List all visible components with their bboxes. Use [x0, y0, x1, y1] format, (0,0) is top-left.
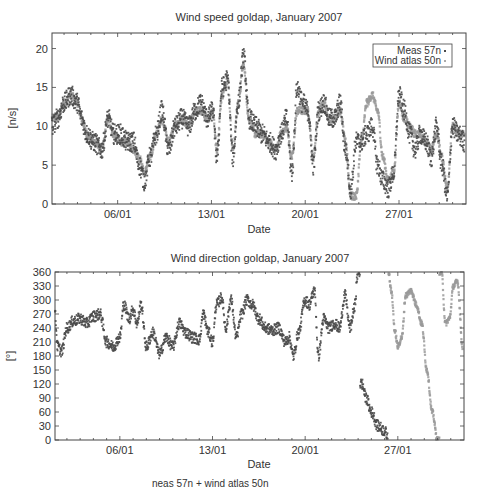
y-tick-label: 0: [42, 198, 48, 210]
y-tick-label: 330: [33, 280, 51, 292]
x-tick-label: 13/01: [198, 208, 226, 220]
legend-atlas-label: Wind atlas 50n: [375, 55, 441, 66]
wind-speed-y-label: [n/s]: [6, 108, 18, 129]
wind-direction-x-label: Date: [247, 458, 270, 470]
x-tick-label: 20/01: [291, 208, 319, 220]
y-tick-label: 20: [36, 43, 48, 55]
wind-direction-plot-frame: [55, 272, 464, 440]
wind-speed-chart: Wind speed goldap, January 2007 05101520…: [6, 11, 466, 235]
chart-canvas: Wind speed goldap, January 2007 05101520…: [0, 0, 482, 498]
y-tick-label: 90: [39, 392, 51, 404]
wind-direction-y-axis: 0306090120150180210240270300330360: [33, 266, 464, 446]
wind-speed-x-label: Date: [247, 223, 270, 235]
wind-direction-points: [54, 271, 464, 441]
x-tick-label: 20/01: [291, 444, 319, 456]
wind-speed-title: Wind speed goldap, January 2007: [176, 11, 343, 23]
y-tick-label: 360: [33, 266, 51, 278]
y-tick-label: 150: [33, 364, 51, 376]
wind-direction-y-label: [°]: [4, 351, 16, 362]
y-tick-label: 240: [33, 322, 51, 334]
y-tick-label: 30: [39, 420, 51, 432]
wind-direction-title: Wind direction goldap, January 2007: [171, 252, 350, 264]
wind-direction-chart: Wind direction goldap, January 2007 0306…: [4, 252, 464, 470]
y-tick-label: 270: [33, 308, 51, 320]
figure-caption: neas 57n + wind atlas 50n: [152, 478, 268, 489]
y-tick-label: 15: [36, 81, 48, 93]
x-tick-label: 13/01: [199, 444, 227, 456]
wind-direction-x-axis: 06/0113/0120/0127/01: [67, 272, 451, 456]
x-tick-label: 27/01: [384, 444, 412, 456]
y-tick-label: 180: [33, 350, 51, 362]
y-tick-label: 5: [42, 159, 48, 171]
y-tick-label: 0: [45, 434, 51, 446]
y-tick-label: 120: [33, 378, 51, 390]
legend-meas-marker: [444, 50, 446, 52]
y-tick-label: 60: [39, 406, 51, 418]
wind-speed-points: [51, 48, 466, 201]
y-tick-label: 210: [33, 336, 51, 348]
x-tick-label: 27/01: [385, 208, 413, 220]
y-tick-label: 300: [33, 294, 51, 306]
x-tick-label: 06/01: [106, 444, 134, 456]
x-tick-label: 06/01: [104, 208, 132, 220]
y-tick-label: 10: [36, 120, 48, 132]
legend-atlas-marker: [444, 60, 446, 62]
wind-speed-legend: Meas 57n Wind atlas 50n: [373, 44, 452, 67]
